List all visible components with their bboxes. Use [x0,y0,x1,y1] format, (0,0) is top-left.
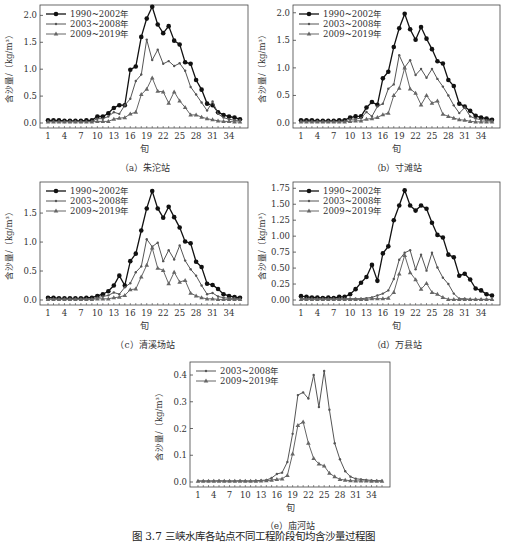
svg-text:2009~2019年: 2009~2019年 [323,206,382,216]
x-tick-label: 4 [211,490,216,500]
x-tick-label: 13 [108,131,119,141]
svg-text:1990~2002年: 1990~2002年 [323,9,382,19]
y-tick-label: 1.00 [271,231,290,241]
y-tick-label: 1.0 [276,63,290,73]
legend-item: 2003~2008年 [299,19,382,29]
legend-item: 1990~2002年 [299,9,382,19]
figure-caption: 图 3.7 三峡水库各站点不同工程阶段旬均含沙量过程图 [0,528,507,543]
x-tick-label: 1 [195,490,200,500]
y-tick-label: 1.0 [23,64,37,74]
x-tick-label: 10 [92,308,103,318]
legend-item: 2009~2019年 [196,376,279,386]
x-tick-label: 1 [45,308,50,318]
x-axis-label: 旬 [392,320,401,331]
x-tick-label: 19 [394,308,405,318]
svg-text:2003~2008年: 2003~2008年 [70,19,129,29]
x-axis-label: 旬 [392,143,401,154]
x-tick-label: 16 [377,308,388,318]
y-tick-label: 0.75 [271,247,290,257]
y-tick-label: 0.00 [271,295,290,305]
series-2009~2019年 [46,75,243,123]
legend-item: 2003~2008年 [299,196,382,206]
x-tick-label: 10 [345,131,356,141]
y-tick-label: 1.5 [23,37,37,47]
svg-text:2009~2019年: 2009~2019年 [323,29,382,39]
chart-a: 0.00.51.01.52.0147101316192225283134旬含沙量… [4,4,248,154]
y-tick-label: 0.50 [271,263,290,273]
y-tick-label: 0.3 [173,397,187,407]
x-tick-label: 22 [303,490,314,500]
x-tick-label: 16 [271,490,282,500]
x-tick-label: 28 [443,131,454,141]
y-tick-label: 0.0 [23,118,37,128]
svg-text:1990~2002年: 1990~2002年 [323,186,382,196]
series-2009~2019年 [196,419,385,482]
x-axis-label: 旬 [140,143,149,154]
x-tick-label: 16 [377,131,388,141]
x-tick-label: 25 [174,308,185,318]
x-tick-label: 31 [459,308,470,318]
x-tick-label: 34 [224,131,235,141]
series-2009~2019年 [299,65,495,123]
x-tick-label: 28 [191,131,202,141]
x-tick-label: 19 [141,131,152,141]
y-tick-label: 1.50 [271,199,290,209]
x-tick-label: 25 [319,490,330,500]
y-tick-label: 1.25 [271,215,290,225]
x-tick-label: 28 [443,308,454,318]
y-axis-label: 含沙量/（kg/m³） [4,30,14,103]
y-tick-label: 0.4 [173,370,187,380]
svg-text:2009~2019年: 2009~2019年 [70,29,129,39]
x-tick-label: 13 [361,131,372,141]
y-axis-label: 含沙量/（kg/m³） [154,388,164,461]
series-2003~2008年 [300,54,493,123]
legend-item: 2009~2019年 [299,206,382,216]
legend-item: 2003~2008年 [46,19,129,29]
x-tick-label: 34 [224,308,235,318]
x-tick-label: 25 [174,131,185,141]
subtitle-c: （c）清溪场站 [40,338,250,351]
x-tick-label: 22 [158,131,169,141]
x-tick-label: 25 [427,308,438,318]
svg-text:2003~2008年: 2003~2008年 [70,196,129,206]
svg-text:1990~2002年: 1990~2002年 [70,9,129,19]
y-tick-label: 0.25 [271,279,290,289]
x-tick-label: 10 [240,490,251,500]
x-tick-label: 34 [366,490,377,500]
y-tick-label: 1.75 [271,183,290,193]
x-tick-label: 13 [108,308,119,318]
y-tick-label: 1.5 [23,208,37,218]
legend-item: 2009~2019年 [46,206,129,216]
svg-text:1990~2002年: 1990~2002年 [70,186,129,196]
x-tick-label: 28 [335,490,346,500]
svg-text:2003~2008年: 2003~2008年 [323,196,382,206]
x-tick-label: 13 [361,308,372,318]
x-tick-label: 31 [207,131,218,141]
y-tick-label: 0.5 [23,266,37,276]
chart-d: 0.000.250.500.751.001.251.501.7514710131… [257,182,500,331]
y-axis-label: 含沙量/（kg/m³） [257,30,267,103]
x-tick-label: 19 [141,308,152,318]
x-tick-label: 13 [256,490,267,500]
legend-item: 2009~2019年 [299,29,382,39]
x-tick-label: 16 [125,308,136,318]
legend-item: 1990~2002年 [299,186,382,196]
x-tick-label: 4 [315,308,320,318]
x-tick-label: 19 [394,131,405,141]
x-tick-label: 34 [476,308,487,318]
legend-item: 1990~2002年 [46,186,129,196]
y-axis-label: 含沙量/（kg/m³） [4,207,14,280]
subtitle-b: （b）寸滩站 [292,161,502,174]
legend-item: 2003~2008年 [196,366,279,376]
x-tick-label: 7 [331,131,336,141]
svg-text:2009~2019年: 2009~2019年 [220,376,279,386]
series-2003~2008年 [47,38,241,122]
x-tick-label: 10 [92,131,103,141]
x-tick-label: 22 [410,308,421,318]
y-tick-label: 1.0 [23,237,37,247]
svg-text:2009~2019年: 2009~2019年 [70,206,129,216]
series-2003~2008年 [47,238,241,300]
x-tick-label: 1 [45,131,50,141]
x-axis-label: 旬 [140,320,149,331]
